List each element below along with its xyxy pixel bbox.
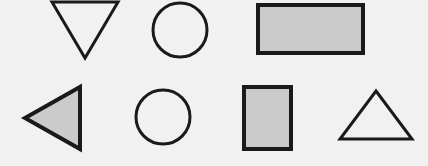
rectangle-wide-filled — [258, 5, 363, 53]
rectangle-tall-filled — [244, 87, 291, 149]
shapes-figure — [0, 0, 428, 166]
shape-canvas — [0, 0, 428, 166]
